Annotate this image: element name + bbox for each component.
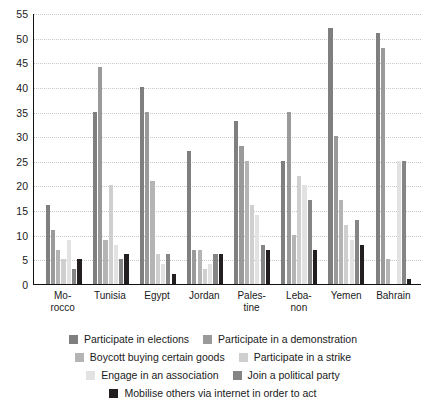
bar [208, 264, 212, 284]
y-axis-tick-5: 5 [4, 255, 28, 265]
legend-row: Mobilise others via internet in order to… [0, 384, 426, 402]
bar [192, 250, 196, 284]
bar [67, 240, 71, 284]
legend-row: Boycott buying certain goodsParticipate … [0, 348, 426, 366]
x-axis-label-line: Yemen [323, 290, 370, 302]
bar [172, 274, 176, 284]
legend-label: Participate in elections [84, 334, 189, 345]
bar [328, 28, 332, 284]
bar [381, 48, 385, 285]
bar [234, 121, 238, 284]
x-axis-label: Leba-non [275, 290, 322, 326]
legend-swatch-icon [75, 353, 84, 362]
y-axis-tick-30: 30 [4, 132, 28, 142]
bar [187, 151, 191, 284]
x-axis-label-line: Egypt [134, 290, 181, 302]
x-axis-label: Jordan [181, 290, 228, 326]
x-axis-label-line [323, 302, 370, 314]
bar [292, 235, 296, 284]
bar [266, 250, 270, 284]
x-axis-label-line [370, 302, 417, 314]
x-axis-label: Pales-tine [228, 290, 275, 326]
chart-legend: Participate in electionsParticipate in a… [0, 330, 426, 406]
bar [203, 269, 207, 284]
bar [313, 250, 317, 284]
bar [261, 245, 265, 284]
x-axis-label-line: Bahrain [370, 290, 417, 302]
y-axis-tick-25: 25 [4, 157, 28, 167]
x-axis-label-line: Pales- [228, 290, 275, 302]
bar [297, 176, 301, 284]
x-axis-label: Bahrain [370, 290, 417, 326]
x-axis-label-line: tine [228, 302, 275, 314]
bar [219, 254, 223, 284]
bar [72, 269, 76, 284]
bar-group [370, 14, 417, 284]
legend-label: Participate in a demonstration [218, 334, 357, 345]
legend-item[interactable]: Boycott buying certain goods [75, 352, 225, 363]
bar [402, 161, 406, 284]
y-axis-tick-0: 0 [4, 280, 28, 290]
bar [161, 264, 165, 284]
legend-label: Join a political party [248, 370, 340, 381]
y-axis-tick-35: 35 [4, 108, 28, 118]
bar [61, 259, 65, 284]
y-axis-tick-labels: 0510152025303540455055 [0, 0, 28, 300]
bar [140, 87, 144, 284]
x-axis-label-line [181, 302, 228, 314]
bar [166, 254, 170, 284]
bar [360, 245, 364, 284]
x-axis-label-line: Tunisia [86, 290, 133, 302]
legend-swatch-icon [203, 335, 212, 344]
bar [376, 33, 380, 284]
x-axis-label: Mo-rocco [39, 290, 86, 326]
legend-swatch-icon [69, 335, 78, 344]
legend-item[interactable]: Engage in an association [86, 370, 218, 381]
legend-swatch-icon [109, 389, 118, 398]
bar [124, 254, 128, 284]
legend-swatch-icon [233, 371, 242, 380]
bar [51, 230, 55, 284]
legend-swatch-icon [239, 353, 248, 362]
bar [407, 279, 411, 284]
x-axis-label: Egypt [134, 290, 181, 326]
x-axis-label-line: Leba- [275, 290, 322, 302]
legend-label: Boycott buying certain goods [90, 352, 225, 363]
legend-row: Engage in an associationJoin a political… [0, 366, 426, 384]
bar [355, 220, 359, 284]
bar [281, 161, 285, 284]
y-axis-tick-40: 40 [4, 83, 28, 93]
legend-swatch-icon [86, 371, 95, 380]
legend-item[interactable]: Join a political party [233, 370, 340, 381]
x-axis-label-line: Jordan [181, 290, 228, 302]
bar [103, 240, 107, 284]
x-axis-label: Tunisia [86, 290, 133, 326]
bar [119, 259, 123, 284]
x-axis-label-line: rocco [39, 302, 86, 314]
x-axis-category-labels: Mo-roccoTunisia Egypt Jordan Pales-tineL… [33, 290, 421, 326]
bar [213, 254, 217, 284]
bar-groups [34, 14, 421, 284]
bar [77, 259, 81, 284]
bar [93, 112, 97, 284]
bar [114, 245, 118, 284]
bar [397, 161, 401, 284]
bar [145, 112, 149, 284]
bar-group [276, 14, 323, 284]
bar-group [87, 14, 134, 284]
y-axis-tick-45: 45 [4, 58, 28, 68]
bar-group [40, 14, 87, 284]
x-axis-label-line [134, 302, 181, 314]
legend-item[interactable]: Mobilise others via internet in order to… [109, 388, 316, 399]
bar [250, 205, 254, 284]
bar-group [181, 14, 228, 284]
legend-row: Participate in electionsParticipate in a… [0, 330, 426, 348]
legend-item[interactable]: Participate in elections [69, 334, 189, 345]
legend-item[interactable]: Participate in a demonstration [203, 334, 357, 345]
bar [150, 181, 154, 284]
bar [344, 225, 348, 284]
legend-item[interactable]: Participate in a strike [239, 352, 351, 363]
bar-group [134, 14, 181, 284]
bar-group [229, 14, 276, 284]
bar [56, 250, 60, 284]
